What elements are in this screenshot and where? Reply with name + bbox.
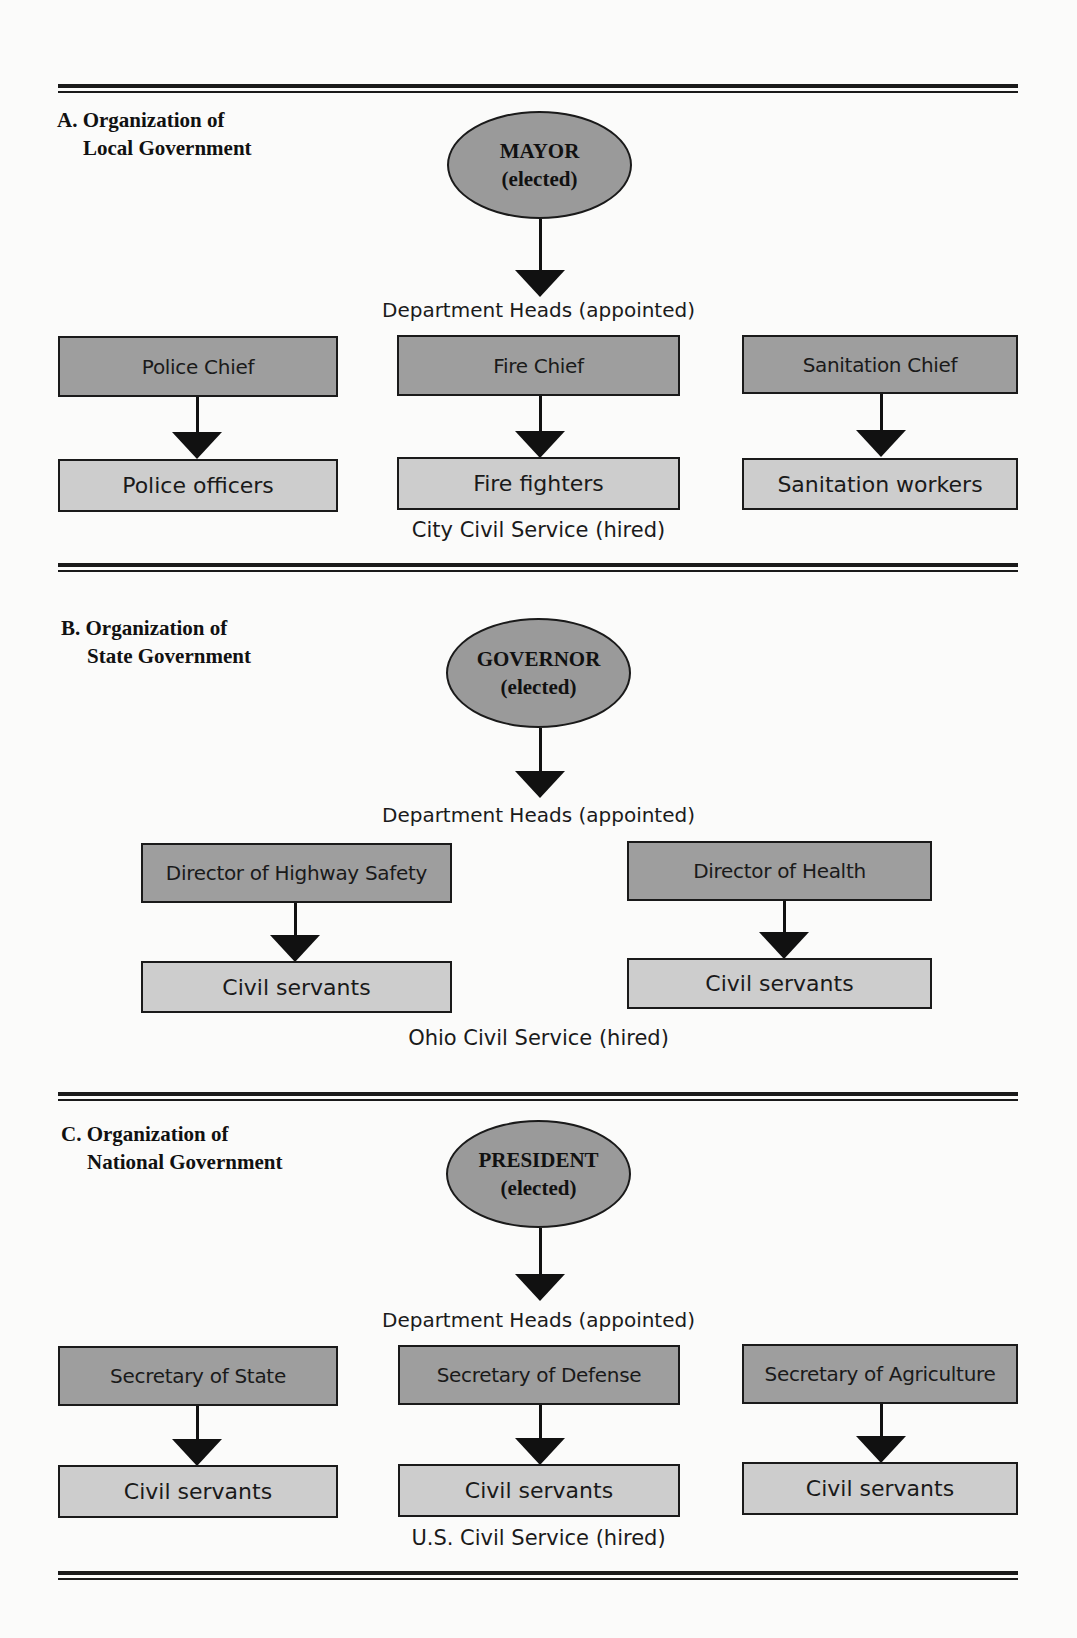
section-title-line1: B. Organization of — [61, 616, 227, 640]
staff-box: Police officers — [58, 459, 338, 512]
staff-box: Fire fighters — [397, 457, 680, 510]
governor-node: GOVERNOR (elected) — [446, 618, 631, 728]
arrow-down-icon — [515, 431, 565, 458]
connector-line — [539, 1405, 542, 1441]
arrow-down-icon — [856, 1436, 906, 1463]
leader-name: PRESIDENT — [478, 1146, 598, 1174]
leader-status: (elected) — [501, 1174, 577, 1202]
department-head-box: Director of Health — [627, 841, 932, 901]
heads-caption: Department Heads (appointed) — [0, 1308, 1077, 1332]
section-title-line2: Local Government — [57, 134, 252, 162]
leader-name: MAYOR — [500, 137, 580, 165]
section-title-line2: State Government — [61, 642, 251, 670]
heads-caption: Department Heads (appointed) — [0, 298, 1077, 322]
arrow-down-icon — [515, 771, 565, 798]
service-caption: City Civil Service (hired) — [0, 518, 1077, 542]
arrow-down-icon — [759, 932, 809, 959]
staff-box: Civil servants — [627, 958, 932, 1009]
heads-caption: Department Heads (appointed) — [0, 803, 1077, 827]
arrow-down-icon — [270, 935, 320, 962]
arrow-down-icon — [515, 1274, 565, 1301]
president-node: PRESIDENT (elected) — [446, 1120, 631, 1228]
arrow-down-icon — [172, 1439, 222, 1466]
section-title: C. Organization of National Government — [61, 1120, 282, 1176]
connector-line — [539, 728, 542, 774]
connector-line — [539, 396, 542, 434]
connector-line — [539, 1228, 542, 1277]
connector-line — [880, 394, 883, 432]
leader-status: (elected) — [501, 673, 577, 701]
connector-line — [880, 1404, 883, 1439]
department-head-box: Director of Highway Safety — [141, 843, 452, 903]
section-title-line2: National Government — [61, 1148, 282, 1176]
staff-box: Civil servants — [58, 1465, 338, 1518]
arrow-down-icon — [856, 430, 906, 457]
connector-line — [196, 397, 199, 435]
mayor-node: MAYOR (elected) — [447, 111, 632, 219]
leader-status: (elected) — [502, 165, 578, 193]
section-title: B. Organization of State Government — [61, 614, 251, 670]
section-title: A. Organization of Local Government — [57, 106, 252, 162]
staff-box: Civil servants — [398, 1464, 680, 1517]
arrow-down-icon — [172, 432, 222, 459]
department-head-box: Secretary of Agriculture — [742, 1344, 1018, 1404]
service-caption: Ohio Civil Service (hired) — [0, 1026, 1077, 1050]
staff-box: Civil servants — [141, 961, 452, 1013]
staff-box: Civil servants — [742, 1462, 1018, 1515]
service-caption: U.S. Civil Service (hired) — [0, 1526, 1077, 1550]
department-head-box: Police Chief — [58, 336, 338, 397]
leader-name: GOVERNOR — [477, 645, 601, 673]
connector-line — [783, 901, 786, 934]
connector-line — [539, 219, 542, 273]
connector-line — [196, 1406, 199, 1442]
arrow-down-icon — [515, 1438, 565, 1465]
department-head-box: Secretary of State — [58, 1346, 338, 1406]
department-head-box: Secretary of Defense — [398, 1345, 680, 1405]
staff-box: Sanitation workers — [742, 458, 1018, 510]
department-head-box: Fire Chief — [397, 335, 680, 396]
section-title-line1: C. Organization of — [61, 1122, 228, 1146]
section-title-line1: A. Organization of — [57, 108, 224, 132]
connector-line — [294, 903, 297, 937]
arrow-down-icon — [515, 270, 565, 297]
department-head-box: Sanitation Chief — [742, 335, 1018, 394]
